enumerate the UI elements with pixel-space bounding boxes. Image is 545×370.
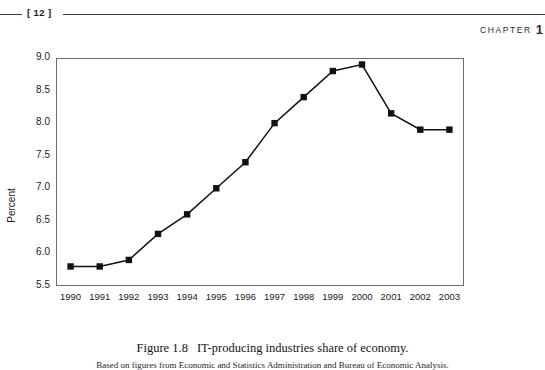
page-number: [ 12 ] [27, 7, 52, 18]
page-header: [ 12 ] CHAPTER 1 [0, 0, 545, 40]
data-point-marker: 1994: 6.6 [184, 211, 190, 217]
data-point-marker: 2000: 8.9 [359, 61, 365, 67]
data-series: 1990: 5.81991: 5.81992: 5.91993: 6.31994… [0, 44, 545, 296]
data-point-marker: 1995: 7 [213, 185, 219, 191]
data-point-marker: 2002: 7.9 [417, 126, 423, 132]
data-point-marker: 1991: 5.8 [97, 263, 103, 269]
data-point-marker: 1999: 8.8 [330, 68, 336, 74]
folio-rule-left [0, 14, 22, 15]
figure-number: Figure 1.8 [137, 341, 188, 355]
figure-title: IT-producing industries share of economy… [197, 341, 409, 355]
figure-caption: Figure 1.8IT-producing industries share … [0, 341, 545, 356]
figure-source-note: Based on figures from Economic and Stati… [0, 360, 545, 370]
data-point-marker: 2001: 8.15 [388, 110, 394, 116]
data-point-marker: 1996: 7.4 [242, 159, 248, 165]
figure-block: Percent 9.08.58.07.57.06.56.05.5 1990199… [0, 44, 545, 296]
chapter-label-text: CHAPTER [480, 25, 532, 35]
series-line [71, 65, 450, 267]
data-point-marker: 1993: 6.3 [155, 231, 161, 237]
data-point-marker: 2003: 7.9 [446, 126, 452, 132]
data-point-marker: 1992: 5.9 [126, 257, 132, 263]
data-point-marker: 1997: 8 [271, 120, 277, 126]
line-chart: Percent 9.08.58.07.57.06.56.05.5 1990199… [0, 44, 545, 296]
header-rule [63, 14, 545, 15]
data-point-marker: 1990: 5.8 [67, 263, 73, 269]
chapter-indicator: CHAPTER 1 [480, 22, 543, 37]
chapter-number: 1 [536, 22, 543, 37]
data-point-marker: 1998: 8.4 [301, 94, 307, 100]
